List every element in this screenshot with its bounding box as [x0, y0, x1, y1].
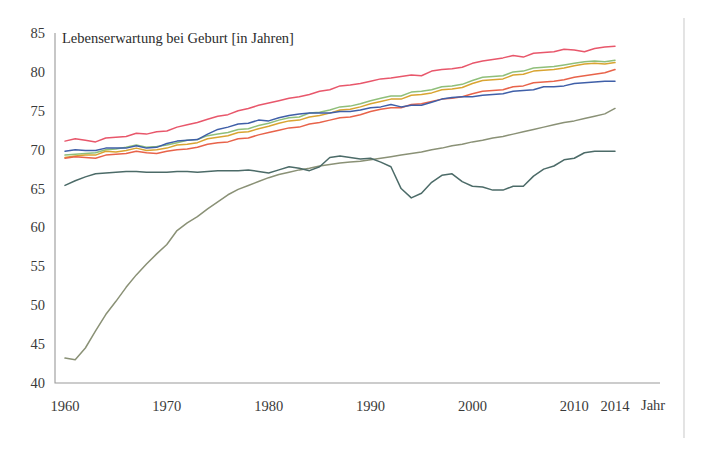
page-title: Lebenserwartung bei Geburt [in Jahren]: [62, 30, 294, 46]
x-axis-tick-labels: 1960197019801990200020102014: [51, 398, 631, 414]
series-line-series-1: [65, 46, 615, 142]
y-tick-80: 80: [31, 64, 46, 80]
y-tick-50: 50: [31, 297, 46, 313]
series-line-series-6: [65, 108, 615, 359]
y-tick-75: 75: [31, 103, 46, 119]
y-tick-40: 40: [31, 375, 46, 391]
chart-figure: Lebenserwartung bei Geburt [in Jahren] J…: [0, 0, 702, 452]
y-tick-65: 65: [31, 181, 46, 197]
axis-frame: [55, 33, 660, 383]
line-chart-svg: Lebenserwartung bei Geburt [in Jahren] J…: [0, 0, 702, 452]
y-tick-45: 45: [31, 336, 46, 352]
x-tick-1990: 1990: [356, 398, 385, 414]
x-tick-1980: 1980: [254, 398, 283, 414]
series-line-series-3: [65, 63, 615, 158]
series-line-series-5: [65, 81, 615, 151]
x-tick-1960: 1960: [51, 398, 80, 414]
y-tick-55: 55: [31, 258, 46, 274]
y-tick-60: 60: [31, 219, 46, 235]
y-axis-tick-labels: 40455055606570758085: [31, 25, 46, 391]
y-tick-70: 70: [31, 142, 46, 158]
series-line-series-4: [65, 70, 615, 159]
x-tick-2010: 2010: [560, 398, 589, 414]
x-tick-2014: 2014: [601, 398, 631, 414]
x-tick-2000: 2000: [458, 398, 487, 414]
x-axis-label: Jahr: [641, 397, 665, 413]
series-line-series-7: [65, 151, 615, 198]
data-series-group: [65, 46, 615, 359]
x-tick-1970: 1970: [152, 398, 181, 414]
y-tick-85: 85: [31, 25, 46, 41]
series-line-series-2: [65, 60, 615, 155]
